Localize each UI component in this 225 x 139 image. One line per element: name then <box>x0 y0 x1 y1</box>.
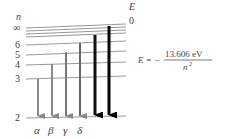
level-label-inf: ∞ <box>13 22 20 33</box>
level-line-3 <box>26 76 126 79</box>
level-line-4 <box>26 62 126 65</box>
transition-arrows <box>38 26 109 116</box>
level-label-3: 3 <box>15 73 20 84</box>
label-gamma: γ <box>63 124 68 136</box>
n-axis-label: n <box>16 11 21 22</box>
energy-formula: E = − 13.606 eV n 2 <box>137 49 212 72</box>
zero-energy-label: 0 <box>129 15 134 26</box>
formula-exponent: 2 <box>189 61 192 67</box>
label-alpha: α <box>34 124 40 136</box>
level-line-5 <box>26 51 126 55</box>
level-line-6 <box>26 41 126 45</box>
formula-denominator: n <box>183 62 188 72</box>
e-axis-label: E <box>128 1 135 12</box>
level-line-2 <box>26 116 126 118</box>
formula-numerator: 13.606 eV <box>165 49 203 59</box>
energy-levels <box>26 24 126 118</box>
label-beta: β <box>47 124 54 136</box>
energy-level-diagram: n E 0 ∞ 6 5 4 3 2 α β γ δ E = − 13.606 e… <box>0 0 225 139</box>
level-label-2: 2 <box>15 112 20 123</box>
label-delta: δ <box>77 124 83 136</box>
level-label-4: 4 <box>15 59 20 70</box>
formula-lhs: E = − <box>137 55 160 65</box>
